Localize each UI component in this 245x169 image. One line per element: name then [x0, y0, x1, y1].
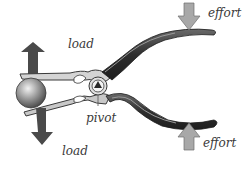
ball-load-object: [16, 78, 46, 108]
top-handle: [102, 29, 216, 80]
load-arrow-up: [21, 42, 45, 78]
effort-label-bottom: effort: [203, 137, 236, 149]
pivot-label: pivot: [86, 112, 116, 124]
effort-arrow-top: [178, 3, 200, 30]
pliers-lever-diagram: load load pivot effort effort: [0, 0, 245, 169]
bottom-handle: [106, 93, 217, 129]
load-label-top: load: [68, 38, 94, 50]
load-label-bottom: load: [62, 145, 88, 157]
effort-label-top: effort: [208, 7, 241, 19]
